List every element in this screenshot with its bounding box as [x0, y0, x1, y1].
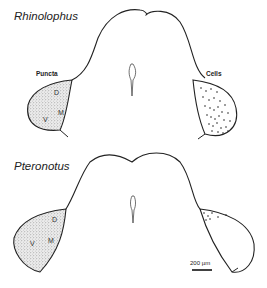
ventricle — [129, 64, 136, 96]
ventricle-bottom — [131, 196, 136, 223]
left-lobe-puncta-bottom — [14, 209, 66, 272]
region-v-bottom: V — [30, 240, 35, 247]
cells-label: Cells — [206, 70, 222, 77]
top-panel-species: Rhinolophus — [14, 10, 78, 22]
left-lobe-puncta — [28, 80, 72, 130]
bottom-panel-species: Pteronotus — [14, 160, 70, 172]
region-d-bottom: D — [52, 216, 57, 223]
scale-bar-label: 200 µm — [190, 260, 210, 266]
region-m-top: M — [58, 109, 64, 116]
puncta-label: Puncta — [36, 70, 58, 77]
region-v-top: V — [43, 116, 48, 123]
region-d-top: D — [54, 89, 59, 96]
figure-canvas — [0, 0, 267, 288]
region-m-bottom: M — [48, 237, 54, 244]
right-lobe-cells — [193, 80, 237, 136]
